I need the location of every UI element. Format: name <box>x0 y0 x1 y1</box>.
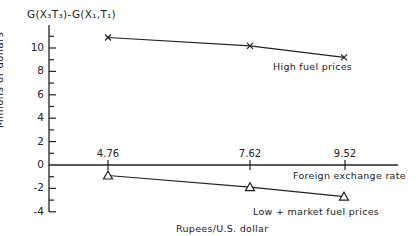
chart-canvas <box>0 0 419 236</box>
y-tick-label: 10 <box>24 41 44 53</box>
series-high-fuel-line <box>108 38 344 58</box>
series-label-low: Low + market fuel prices <box>253 206 379 217</box>
series-label-high: High fuel prices <box>273 61 352 72</box>
y-tick-label: 4 <box>24 111 44 123</box>
x-axis-name: Foreign exchange rate <box>293 170 406 181</box>
y-tick-label: -2 <box>24 181 44 193</box>
x-tick-label: 7.62 <box>230 148 270 159</box>
y-tick-label: -4 <box>24 205 44 217</box>
y-tick-label: 2 <box>24 135 44 147</box>
y-tick-label: 8 <box>24 64 44 76</box>
y-tick-label: 0 <box>24 158 44 170</box>
y-axis-label: Millions of dollars <box>0 32 5 128</box>
y-ticks <box>49 36 56 212</box>
x-markers <box>105 35 347 61</box>
chart-title: G(X₃T₃)-G(X₁,T₁) <box>27 8 116 20</box>
x-axis-label: Rupees/U.S. dollar <box>176 223 268 234</box>
y-tick-label: 6 <box>24 88 44 100</box>
x-tick-label: 4.76 <box>88 148 128 159</box>
x-tick-label: 9.52 <box>325 148 365 159</box>
